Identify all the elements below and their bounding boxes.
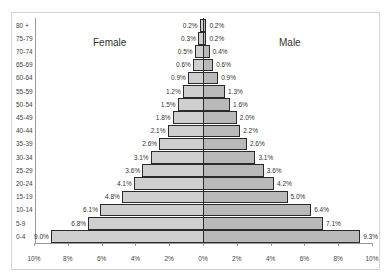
male-bar: [203, 151, 255, 164]
female-value-label: 2.1%: [151, 127, 166, 135]
male-bar: [203, 72, 218, 85]
male-bar: [203, 191, 288, 204]
x-tick: [34, 243, 35, 246]
male-bar: [203, 164, 264, 177]
female-bar: [159, 138, 204, 151]
category-label: 75-79: [16, 35, 33, 43]
male-bar: [203, 85, 225, 98]
category-label: 40-44: [16, 127, 33, 135]
female-value-label: 0.2%: [183, 22, 198, 30]
male-value-label: 2.2%: [243, 127, 258, 135]
category-label: 80 +: [16, 22, 29, 30]
category-label: 45-49: [16, 114, 33, 122]
female-value-label: 6.8%: [71, 220, 86, 228]
female-value-label: 0.9%: [171, 74, 186, 82]
category-label: 55-59: [16, 88, 33, 96]
x-tick-label: 8%: [326, 255, 350, 262]
female-bar: [168, 125, 204, 138]
x-tick: [102, 243, 103, 246]
female-bar: [183, 85, 204, 98]
male-value-label: 0.4%: [213, 48, 228, 56]
x-tick-label: 8%: [56, 255, 80, 262]
female-bar: [51, 230, 204, 243]
female-bar: [122, 191, 204, 204]
female-value-label: 3.1%: [134, 154, 149, 162]
male-value-label: 4.2%: [277, 180, 292, 188]
male-value-label: 6.4%: [314, 206, 329, 214]
male-bar: [203, 230, 360, 243]
female-bar: [100, 204, 204, 217]
female-value-label: 6.1%: [83, 206, 98, 214]
x-tick-label: 2%: [225, 255, 249, 262]
male-bar: [203, 125, 240, 138]
category-label: 5-9: [16, 220, 25, 228]
female-bar: [88, 217, 204, 230]
x-tick: [338, 243, 339, 246]
x-tick: [169, 243, 170, 246]
male-value-label: 9.3%: [363, 233, 378, 241]
male-value-label: 0.6%: [216, 61, 231, 69]
female-bar: [151, 151, 204, 164]
female-value-label: 9.0%: [34, 233, 49, 241]
category-label: 60-64: [16, 74, 33, 82]
x-tick: [271, 243, 272, 246]
female-value-label: 1.2%: [166, 88, 181, 96]
male-value-label: 5.0%: [291, 193, 306, 201]
male-value-label: 0.9%: [221, 74, 236, 82]
male-bar: [203, 111, 237, 124]
female-value-label: 1.5%: [161, 101, 176, 109]
female-bar: [142, 164, 204, 177]
x-tick-label: 10%: [22, 255, 46, 262]
male-value-label: 0.2%: [209, 35, 224, 43]
male-bar: [203, 177, 274, 190]
category-label: 20-24: [16, 180, 33, 188]
female-value-label: 0.6%: [176, 61, 191, 69]
female-bar: [173, 111, 204, 124]
female-title: Female: [93, 37, 126, 48]
category-label: 0-4: [16, 233, 25, 241]
male-bar: [203, 217, 323, 230]
female-bar: [134, 177, 204, 190]
male-bar: [203, 98, 230, 111]
male-bar: [203, 59, 213, 72]
x-tick-label: 6%: [90, 255, 114, 262]
male-value-label: 2.0%: [240, 114, 255, 122]
x-tick: [135, 243, 136, 246]
category-label: 15-19: [16, 193, 33, 201]
category-label: 30-34: [16, 154, 33, 162]
female-value-label: 0.5%: [178, 48, 193, 56]
female-bar: [178, 98, 204, 111]
male-value-label: 1.3%: [228, 88, 243, 96]
male-value-label: 7.1%: [326, 220, 341, 228]
female-bar: [188, 72, 204, 85]
category-label: 65-69: [16, 61, 33, 69]
female-value-label: 0.3%: [181, 35, 196, 43]
category-label: 70-74: [16, 48, 33, 56]
male-bar: [203, 138, 247, 151]
male-value-label: 0.2%: [209, 22, 224, 30]
x-tick-label: 0%: [191, 255, 215, 262]
male-bar: [203, 45, 210, 58]
x-tick-label: 4%: [259, 255, 283, 262]
y-axis-line: [35, 18, 36, 243]
x-axis-line: [35, 243, 373, 244]
male-bar: [203, 204, 311, 217]
x-tick: [237, 243, 238, 246]
female-value-label: 1.8%: [156, 114, 171, 122]
x-tick-label: 6%: [292, 255, 316, 262]
x-tick: [68, 243, 69, 246]
x-tick-label: 10%: [360, 255, 384, 262]
x-tick: [203, 243, 204, 246]
category-label: 35-39: [16, 140, 33, 148]
center-axis-line: [203, 18, 204, 243]
male-value-label: 3.6%: [267, 167, 282, 175]
male-value-label: 2.6%: [250, 140, 265, 148]
female-value-label: 4.8%: [105, 193, 120, 201]
male-value-label: 1.6%: [233, 101, 248, 109]
x-tick: [372, 243, 373, 246]
category-label: 50-54: [16, 101, 33, 109]
x-tick-label: 4%: [123, 255, 147, 262]
female-value-label: 4.1%: [117, 180, 132, 188]
male-title: Male: [279, 37, 301, 48]
x-tick-label: 2%: [157, 255, 181, 262]
